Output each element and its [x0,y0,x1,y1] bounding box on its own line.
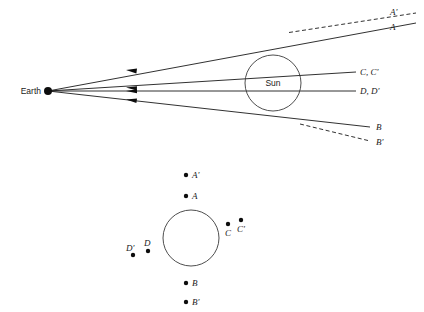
point-a-prime-label: A' [191,170,200,180]
point-d-prime-label: D' [125,243,135,253]
upper-diagram: Sun Earth A' A C, C' D, D' B B' [21,7,416,147]
lower-diagram: A' A C C' D D' B B' [125,170,246,307]
point-a-dot [184,194,188,198]
optics-ray-figure: Sun Earth A' A C, C' D, D' B B' A' A C C… [0,0,424,312]
point-c-prime-dot [239,218,243,222]
point-b-prime-dot [184,300,188,304]
point-d-prime-dot [131,253,135,257]
upper-label-b-prime: B' [376,137,384,147]
upper-label-d-pair: D, D' [359,86,380,96]
point-b-prime-label: B' [192,297,200,307]
arrowhead-ray-d [126,89,137,93]
point-a-label: A [191,191,198,201]
arrowhead-ray-a [126,69,137,74]
earth-label: Earth [21,86,42,96]
ray-b-solid [48,91,370,127]
point-d-label: D [143,238,151,248]
point-c-prime-label: C' [237,224,246,234]
point-b-label: B [192,278,198,288]
point-b-dot [184,281,188,285]
earth-dot [44,87,52,95]
point-c-label: C [225,228,232,238]
upper-label-c-pair: C, C' [360,67,380,77]
sun-label: Sun [265,78,280,88]
ray-c-solid [48,72,356,91]
ray-a-solid [48,23,416,91]
ray-b-prime-dashed [300,124,370,141]
upper-label-a-prime: A' [389,7,398,17]
lower-sun-circle [163,210,219,266]
point-d-dot [146,249,150,253]
upper-label-a: A [389,22,396,32]
point-c-dot [226,222,230,226]
upper-label-b: B [376,122,382,132]
point-a-prime-dot [184,173,188,177]
arrowhead-ray-b [126,98,137,103]
